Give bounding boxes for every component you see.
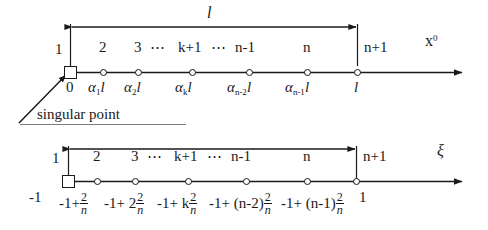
coordinate-label-bottom-3: -1+ 22n: [104, 190, 144, 215]
node-marker-top: [100, 69, 107, 76]
axis-label-bottom: ξ: [437, 143, 444, 159]
node-marker-square-top: [64, 66, 77, 79]
ellipsis-top-right: ⋯: [211, 40, 227, 55]
length-symbol: l: [100, 79, 104, 95]
node-number-top-n1plus: n+1: [364, 40, 387, 55]
node-marker-bottom: [185, 178, 192, 185]
coordinate-label-top-an1: αn-1l: [285, 80, 309, 97]
coordinate-text: l: [354, 79, 358, 95]
node-marker-bottom: [304, 178, 311, 185]
fraction-denominator: n: [189, 203, 197, 216]
node-number-bottom-n1plus: n+1: [363, 149, 386, 164]
node-number-top-n1: n-1: [235, 40, 255, 55]
alpha-symbol: α: [88, 79, 96, 95]
singular-point-annotation: singular point: [37, 107, 120, 122]
fraction-2-over-n: 2n: [336, 191, 344, 216]
node-marker-bottom: [243, 178, 250, 185]
alpha-symbol: α: [175, 79, 183, 95]
coordinate-label-bottom-n1: -1+ (n-1)2n: [281, 190, 344, 215]
node-marker-top: [354, 69, 361, 76]
coordinate-label-top-a1: α1l: [88, 80, 105, 97]
length-symbol: l: [247, 79, 251, 95]
alpha-symbol: α: [227, 79, 235, 95]
node-marker-bottom: [94, 178, 101, 185]
coordinate-lead: -1+: [59, 195, 80, 211]
fraction-2-over-n: 2n: [136, 191, 144, 216]
length-symbol: l: [136, 79, 140, 95]
coordinate-lead: -1+ k: [157, 195, 189, 211]
alpha-subscript: n-1: [293, 87, 305, 97]
node-number-bottom-1: 1: [52, 151, 60, 166]
fraction-numerator: 2: [264, 191, 272, 203]
length-symbol: l: [305, 79, 309, 95]
alpha-symbol: α: [285, 79, 293, 95]
coordinate-lead: -1+ 2: [104, 195, 136, 211]
fraction-numerator: 2: [336, 191, 344, 203]
coordinate-label-bottom-1: -1: [29, 190, 42, 205]
length-symbol: l: [187, 79, 191, 95]
fraction-denominator: n: [264, 203, 272, 216]
alpha-symbol: α: [124, 79, 132, 95]
fraction-denominator: n: [336, 203, 344, 216]
coordinate-label-top-a2: α2l: [124, 80, 141, 97]
coordinate-label-top-0: 0: [66, 80, 74, 95]
axis-label-top-text: x: [425, 32, 433, 49]
ellipsis-bottom-right: ⋯: [207, 149, 223, 164]
node-number-bottom-2: 2: [93, 149, 101, 164]
coordinate-label-top-an2: αn-2l: [227, 80, 251, 97]
node-marker-top: [246, 69, 253, 76]
coordinate-label-bottom-last: 1: [359, 190, 367, 205]
node-number-top-3: 3: [134, 40, 142, 55]
coordinate-label-bottom-n2: -1+ (n-2)2n: [209, 190, 272, 215]
coordinate-text: -1: [29, 189, 42, 205]
node-number-bottom-n1: n-1: [231, 149, 251, 164]
node-number-bottom-k1: k+1: [174, 149, 197, 164]
coordinate-lead: -1+ (n-2): [209, 195, 264, 211]
coordinate-lead: -1+ (n-1): [281, 195, 336, 211]
fraction-2-over-n: 2n: [189, 191, 197, 216]
node-number-top-k1: k+1: [178, 40, 201, 55]
fraction-numerator: 2: [136, 191, 144, 203]
node-marker-bottom: [353, 178, 360, 185]
node-number-bottom-3: 3: [131, 149, 139, 164]
figure-canvas: l 1 2 3 ⋯ k+1 ⋯ n-1 n n+1 x0 0 α1l α2l α…: [0, 0, 488, 230]
alpha-subscript: n-2: [235, 87, 247, 97]
fraction-denominator: n: [136, 203, 144, 216]
fraction-numerator: 2: [80, 191, 88, 203]
axis-label-top-superscript: 0: [433, 33, 438, 43]
axis-label-top: x0: [425, 33, 438, 49]
node-marker-top: [189, 69, 196, 76]
coordinate-label-top-l: l: [354, 80, 358, 95]
fraction-numerator: 2: [189, 191, 197, 203]
coordinate-label-top-ak: αkl: [175, 80, 192, 97]
node-marker-square-bottom: [62, 175, 75, 188]
node-marker-top: [304, 69, 311, 76]
coordinate-text: 1: [359, 189, 367, 205]
ellipsis-top-left: ⋯: [150, 40, 166, 55]
fraction-2-over-n: 2n: [264, 191, 272, 216]
node-number-top-1: 1: [55, 42, 63, 57]
node-number-top-2: 2: [99, 40, 107, 55]
node-number-bottom-n: n: [303, 149, 311, 164]
dimension-label-top: l: [207, 5, 211, 21]
node-marker-bottom: [132, 178, 139, 185]
coordinate-label-bottom-2: -1+2n: [59, 190, 88, 215]
coordinate-text: 0: [66, 79, 74, 95]
node-number-top-n: n: [303, 40, 311, 55]
coordinate-label-bottom-k1: -1+ k2n: [157, 190, 197, 215]
ellipsis-bottom-left: ⋯: [147, 149, 163, 164]
fraction-denominator: n: [80, 203, 88, 216]
fraction-2-over-n: 2n: [80, 191, 88, 216]
node-marker-top: [135, 69, 142, 76]
